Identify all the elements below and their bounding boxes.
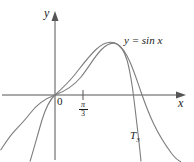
taylor-curve-label: T3 (130, 130, 140, 144)
taylor-curve-label-subscript: 3 (136, 136, 140, 144)
tick-numerator: π (75, 101, 91, 109)
y-axis-arrowhead (52, 11, 59, 21)
origin-label: 0 (57, 96, 63, 107)
x-axis-label: x (178, 97, 183, 109)
tick-denominator: 3 (75, 110, 91, 118)
x-tick-label-pi-over-3: π 3 (75, 101, 91, 119)
plot-canvas (0, 0, 194, 162)
taylor-polynomial-figure: y x 0 y = sin x T3 π 3 (0, 0, 194, 162)
sine-curve-label: y = sin x (124, 35, 162, 46)
y-axis-label: y (44, 7, 49, 19)
